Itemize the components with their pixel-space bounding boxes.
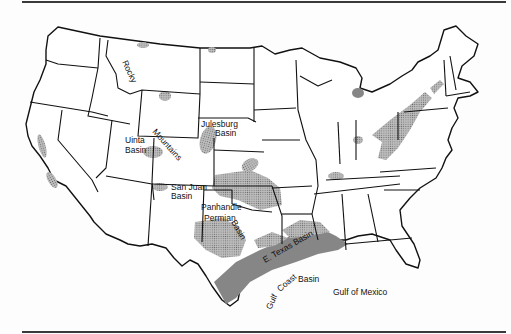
label-julesburg-2: Basin xyxy=(215,128,237,138)
label-uinta-2: Basin xyxy=(125,145,147,155)
label-coast: Coast xyxy=(275,271,299,293)
label-gulf: Gulf xyxy=(264,292,280,311)
label-san-juan-2: Basin xyxy=(171,191,193,201)
label-gulf-of-mexico: Gulf of Mexico xyxy=(333,287,388,297)
label-panhandle: Panhandle xyxy=(201,202,242,212)
label-uinta-1: Uinta xyxy=(125,135,145,145)
us-basin-map: Rocky Mountains Uinta Basin Julesburg Ba… xyxy=(0,0,511,334)
label-coast-basin: Basin xyxy=(298,274,320,284)
